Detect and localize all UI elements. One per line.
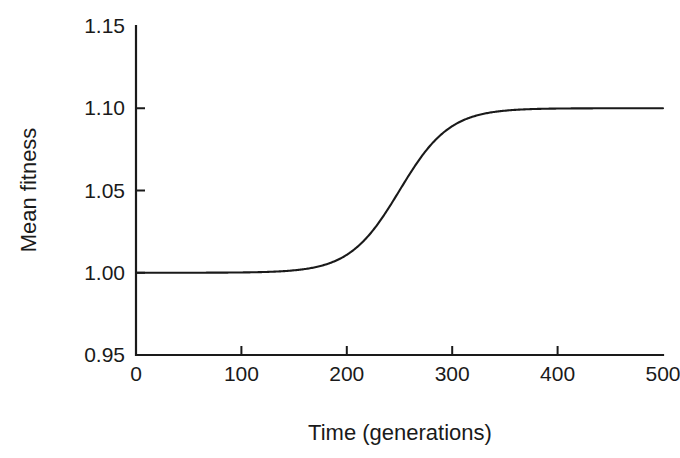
x-tick-label-0: 0 [130, 362, 142, 385]
chart-background [0, 0, 680, 458]
x-axis-title: Time (generations) [308, 420, 492, 445]
y-tick-label-1.05: 1.05 [84, 179, 125, 202]
x-tick-label-200: 200 [329, 362, 364, 385]
mean-fitness-line-chart: 0.951.001.051.101.15 0100200300400500 Ti… [0, 0, 680, 458]
figure-container: 0.951.001.051.101.15 0100200300400500 Ti… [0, 0, 680, 458]
y-tick-label-1.10: 1.10 [84, 96, 125, 119]
y-tick-label-0.95: 0.95 [84, 343, 125, 366]
x-tick-label-100: 100 [224, 362, 259, 385]
x-tick-label-300: 300 [435, 362, 470, 385]
x-tick-label-500: 500 [645, 362, 680, 385]
y-tick-label-1.15: 1.15 [84, 14, 125, 37]
y-axis-title: Mean fitness [16, 128, 41, 253]
x-tick-label-400: 400 [540, 362, 575, 385]
y-tick-label-1.00: 1.00 [84, 261, 125, 284]
